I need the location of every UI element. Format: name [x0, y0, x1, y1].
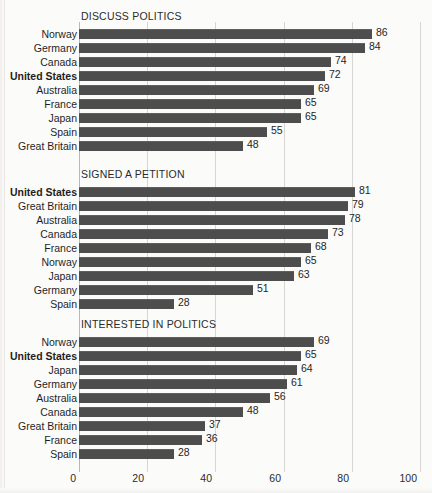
bar [79, 393, 270, 403]
bar [79, 421, 205, 431]
x-axis: 020406080100 [0, 472, 432, 492]
bar-row: Norway86 [0, 27, 432, 41]
bar-row: Germany61 [0, 377, 432, 391]
bar-value-label: 74 [335, 55, 347, 66]
bar-row: Japan64 [0, 363, 432, 377]
category-label: Germany [34, 378, 77, 390]
bar-value-label: 65 [305, 349, 317, 360]
category-label: United States [10, 186, 77, 198]
bar-track [79, 187, 355, 197]
category-label: United States [10, 70, 77, 82]
category-label: France [44, 98, 77, 110]
bar-row: Australia78 [0, 213, 432, 227]
panel-rows: United States81Great Britain79Australia7… [0, 185, 432, 311]
bar-track [79, 201, 348, 211]
bar-row: Australia56 [0, 391, 432, 405]
bar [79, 285, 253, 295]
bar-track [79, 141, 243, 151]
bar-value-label: 28 [178, 447, 190, 458]
bar-value-label: 65 [305, 111, 317, 122]
bar-row: Japan65 [0, 111, 432, 125]
bar-track [79, 127, 267, 137]
bar [79, 201, 348, 211]
category-label: Great Britain [18, 420, 77, 432]
bar [79, 127, 267, 137]
bar-row: Norway65 [0, 255, 432, 269]
bar-row: France36 [0, 433, 432, 447]
bar-track [79, 215, 345, 225]
panel-title: DISCUSS POLITICS [81, 10, 182, 22]
bar [79, 187, 355, 197]
bar-track [79, 449, 174, 459]
panel-title: SIGNED A PETITION [81, 168, 185, 180]
bar-track [79, 71, 325, 81]
bar-row: Great Britain48 [0, 139, 432, 153]
bar [79, 229, 328, 239]
bar [79, 141, 243, 151]
category-label: Spain [50, 448, 77, 460]
bar-value-label: 86 [376, 27, 388, 38]
category-label: Canada [40, 56, 77, 68]
bar-track [79, 85, 314, 95]
category-label: Spain [50, 298, 77, 310]
bar-row: Canada73 [0, 227, 432, 241]
bar [79, 407, 243, 417]
bar [79, 29, 372, 39]
bar-track [79, 57, 331, 67]
bar-row: United States81 [0, 185, 432, 199]
bar-row: Germany84 [0, 41, 432, 55]
bar-value-label: 79 [352, 199, 364, 210]
category-label: Norway [41, 256, 77, 268]
bar-value-label: 69 [318, 83, 330, 94]
x-tick-label-0: 0 [70, 472, 79, 484]
bar-row: Canada74 [0, 55, 432, 69]
category-label: Canada [40, 406, 77, 418]
bar-track [79, 299, 174, 309]
category-label: Australia [36, 84, 77, 96]
bar-value-label: 56 [274, 391, 286, 402]
bar-value-label: 61 [291, 377, 303, 388]
category-label: Japan [48, 112, 77, 124]
x-tick-label-60: 60 [269, 472, 284, 484]
bar-value-label: 51 [257, 283, 269, 294]
bar-row: Canada48 [0, 405, 432, 419]
bar-track [79, 365, 297, 375]
bar-track [79, 29, 372, 39]
category-label: Germany [34, 42, 77, 54]
panel-1: DISCUSS POLITICSNorway86Germany84Canada7… [0, 10, 432, 153]
bar-track [79, 351, 301, 361]
bar [79, 351, 301, 361]
category-label: United States [10, 350, 77, 362]
bar-value-label: 69 [318, 335, 330, 346]
bar-row: Norway69 [0, 335, 432, 349]
bar-track [79, 43, 365, 53]
bar-chart-figure: DISCUSS POLITICSNorway86Germany84Canada7… [0, 0, 432, 493]
category-label: Great Britain [18, 140, 77, 152]
bar-value-label: 64 [301, 363, 313, 374]
bar-row: Great Britain37 [0, 419, 432, 433]
panel-rows: Norway69United States65Japan64Germany61A… [0, 335, 432, 461]
bar [79, 71, 325, 81]
category-label: Australia [36, 392, 77, 404]
bar [79, 113, 301, 123]
bar-track [79, 257, 301, 267]
bar-row: Great Britain79 [0, 199, 432, 213]
bar-row: Germany51 [0, 283, 432, 297]
bar-track [79, 337, 314, 347]
bar-value-label: 81 [359, 185, 371, 196]
bar-value-label: 72 [329, 69, 341, 80]
category-label: Great Britain [18, 200, 77, 212]
bar [79, 435, 202, 445]
panel-2: SIGNED A PETITIONUnited States81Great Br… [0, 168, 432, 311]
bar-value-label: 55 [271, 125, 283, 136]
bar-value-label: 36 [206, 433, 218, 444]
bar [79, 379, 287, 389]
bar-track [79, 435, 202, 445]
x-tick-label-20: 20 [132, 472, 147, 484]
panel-3: INTERESTED IN POLITICSNorway69United Sta… [0, 318, 432, 461]
bar-row: Spain28 [0, 447, 432, 461]
bar [79, 215, 345, 225]
bar-value-label: 28 [178, 297, 190, 308]
bar-row: United States72 [0, 69, 432, 83]
bar [79, 449, 174, 459]
